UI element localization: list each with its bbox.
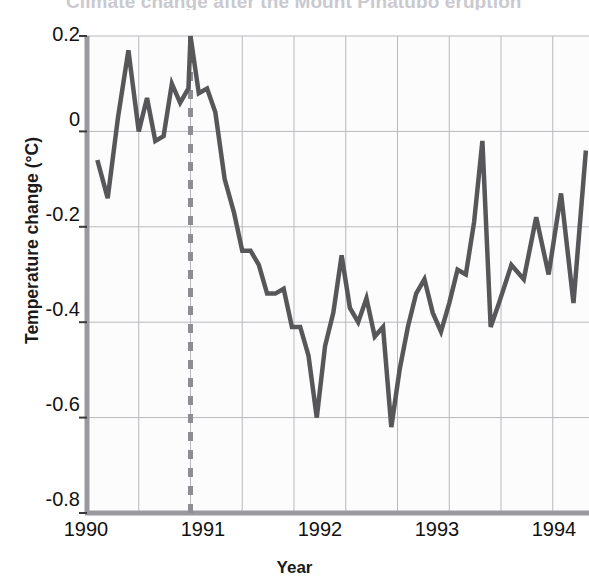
chart-figure: Climate change after the Mount Pinatubo … bbox=[0, 0, 589, 587]
plot-area bbox=[0, 0, 589, 587]
